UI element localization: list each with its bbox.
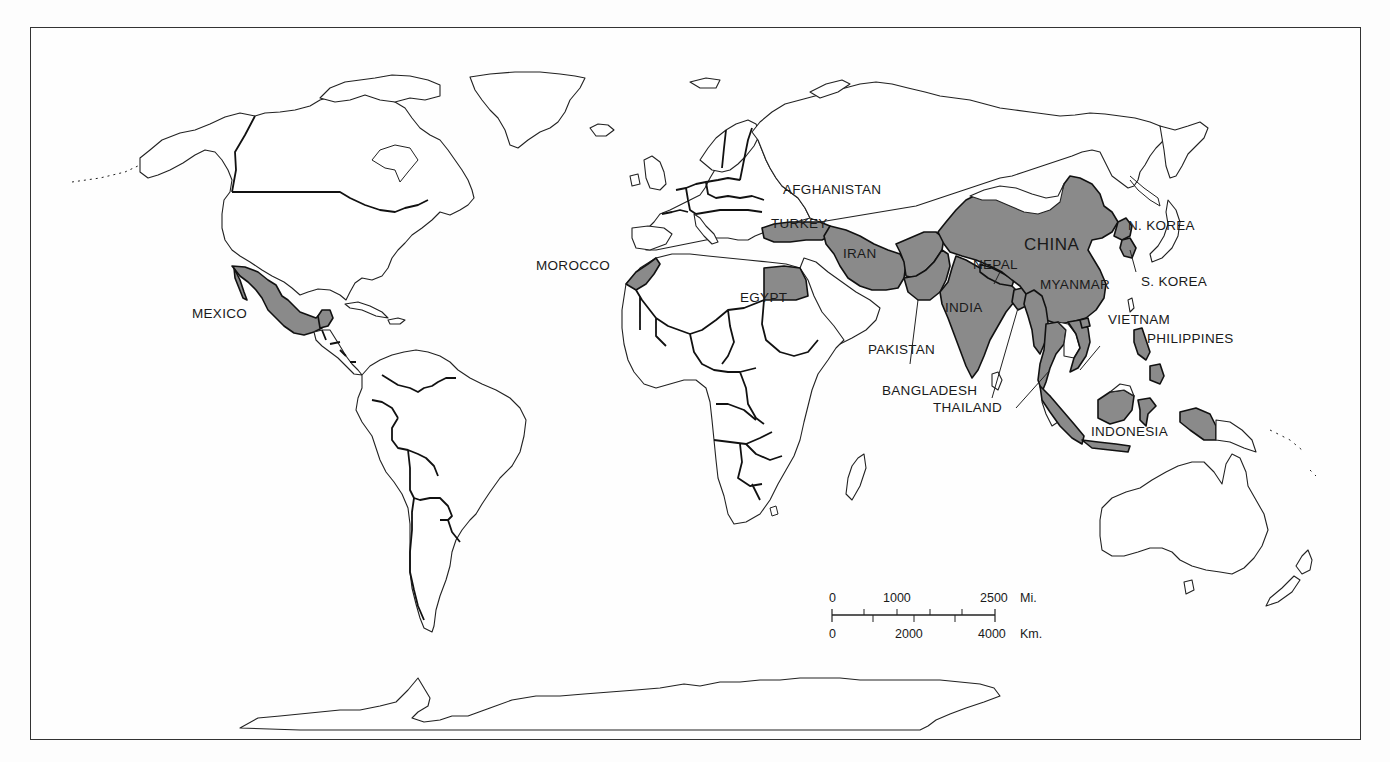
label-indonesia: INDONESIA [1091, 425, 1168, 439]
landmass-south-america [356, 350, 526, 632]
label-pakistan: PAKISTAN [868, 343, 935, 357]
label-iran: IRAN [843, 247, 876, 261]
yucatan [318, 310, 333, 328]
country-indonesia-java[interactable] [1082, 440, 1130, 452]
kamchatka [1160, 122, 1208, 178]
scale-km-2000: 2000 [895, 628, 923, 641]
label-myanmar: MYANMAR [1040, 278, 1110, 292]
scale-km-0: 0 [829, 628, 836, 641]
label-morocco: MOROCCO [536, 259, 610, 273]
world-map [0, 0, 1390, 762]
sakhalin [1130, 176, 1160, 206]
philippines-south [1150, 364, 1164, 384]
landmass-antarctica [240, 678, 1000, 730]
label-china: CHINA [1024, 236, 1079, 253]
scale-km-unit: Km. [1020, 628, 1042, 641]
scale-km-4000: 4000 [978, 628, 1006, 641]
landmass-hispaniola [388, 318, 405, 324]
oceania [1100, 454, 1312, 606]
label-mexico: MEXICO [192, 307, 247, 321]
label-philippines: PHILIPPINES [1147, 332, 1234, 346]
landmass-cuba [345, 302, 388, 318]
scale-mi-unit: Mi. [1020, 592, 1037, 605]
aleutian-islands [72, 165, 140, 182]
landmass-new-zealand-south [1266, 576, 1300, 606]
arctic-islands [320, 75, 440, 102]
label-n-korea: N. KOREA [1128, 219, 1195, 233]
landmass-africa [622, 254, 844, 524]
country-indonesia-borneo[interactable] [1098, 390, 1134, 424]
label-egypt: EGYPT [740, 291, 787, 305]
arctic-islands-russia-2 [690, 78, 720, 88]
pacific-islands [1270, 430, 1316, 476]
scale-mi-0: 0 [829, 592, 836, 605]
hainan [1080, 318, 1090, 328]
label-nepal: NEPAL [973, 258, 1018, 272]
north-america [72, 72, 614, 375]
landmass-madagascar [846, 454, 866, 500]
landmass-new-zealand-north [1296, 550, 1312, 574]
country-indonesia-papua[interactable] [1180, 408, 1216, 440]
landmass-tasmania [1184, 580, 1194, 594]
label-s-korea: S. KOREA [1141, 275, 1207, 289]
label-vietnam: VIETNAM [1108, 313, 1170, 327]
landmass-greenland [470, 72, 585, 148]
landmass-iceland [590, 124, 614, 136]
label-afghanistan: AFGHANISTAN [783, 183, 881, 197]
south-america [356, 350, 526, 632]
label-thailand: THAILAND [933, 401, 1002, 415]
landmass-uk [644, 156, 666, 190]
label-india: INDIA [945, 301, 983, 315]
scale-mi-2500: 2500 [980, 592, 1008, 605]
country-indonesia-sulawesi[interactable] [1138, 398, 1156, 426]
country-s-korea[interactable] [1120, 238, 1136, 258]
asia [762, 176, 1316, 476]
label-turkey: TURKEY [771, 217, 828, 231]
landmass-taiwan [1128, 298, 1134, 312]
scale-mi-1000: 1000 [883, 592, 911, 605]
landmass-central-america [314, 330, 362, 375]
landmass-papua-new-guinea [1216, 420, 1256, 452]
landmass-north-america [140, 90, 474, 300]
landmass-lesotho [770, 506, 778, 516]
label-bangladesh: BANGLADESH [882, 384, 977, 398]
scale-bar [832, 609, 995, 622]
landmass-australia [1100, 454, 1268, 574]
landmass-ireland [630, 174, 640, 186]
